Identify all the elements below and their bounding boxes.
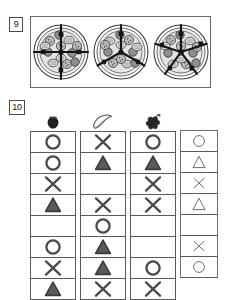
- table-cell[interactable]: [31, 237, 75, 258]
- pizza-thirds[interactable]: [91, 22, 151, 82]
- table-cell[interactable]: [131, 216, 175, 237]
- cells-banana: [80, 131, 126, 300]
- table-cell[interactable]: [181, 194, 217, 215]
- table-cell[interactable]: [131, 195, 175, 216]
- table-cell[interactable]: [81, 195, 125, 216]
- pizza-row: [31, 17, 210, 87]
- table-cell[interactable]: [31, 132, 75, 153]
- table-cell[interactable]: [81, 216, 125, 237]
- table-cell[interactable]: [31, 153, 75, 174]
- table-cell[interactable]: [31, 195, 75, 216]
- cells-answer-key: [180, 130, 218, 278]
- table-cell[interactable]: [181, 131, 217, 152]
- table-cell[interactable]: [81, 258, 125, 279]
- table-cell[interactable]: [131, 258, 175, 279]
- banana-icon: [80, 114, 126, 130]
- table-cell[interactable]: [31, 174, 75, 195]
- table-cell[interactable]: [81, 153, 125, 174]
- table-cell[interactable]: [181, 215, 217, 236]
- table-cell[interactable]: [131, 132, 175, 153]
- table-cell[interactable]: [181, 152, 217, 173]
- grapes-icon: [130, 114, 176, 130]
- table-cell[interactable]: [181, 236, 217, 257]
- column-banana: [80, 114, 126, 300]
- column-answer-key: [180, 130, 218, 278]
- table-cell[interactable]: [181, 173, 217, 194]
- table-cell[interactable]: [31, 258, 75, 279]
- strawberry-icon: [30, 114, 76, 130]
- pizza-quarters[interactable]: [31, 22, 91, 82]
- table-cell[interactable]: [81, 237, 125, 258]
- column-strawberry: [30, 114, 76, 300]
- table-cell[interactable]: [81, 279, 125, 300]
- table-cell[interactable]: [81, 132, 125, 153]
- table-cell[interactable]: [131, 237, 175, 258]
- pizza-panel: [30, 16, 211, 88]
- fruit-symbol-table: [0, 96, 227, 299]
- table-cell[interactable]: [131, 153, 175, 174]
- table-cell[interactable]: [181, 257, 217, 278]
- table-cell[interactable]: [31, 216, 75, 237]
- cells-grapes: [130, 131, 176, 300]
- table-cell[interactable]: [131, 279, 175, 300]
- exercise-number-9: 9: [9, 17, 23, 32]
- cells-strawberry: [30, 131, 76, 300]
- column-grapes: [130, 114, 176, 300]
- table-cell[interactable]: [131, 174, 175, 195]
- table-cell[interactable]: [31, 279, 75, 300]
- table-cell[interactable]: [81, 174, 125, 195]
- pizza-fifths[interactable]: [151, 22, 211, 82]
